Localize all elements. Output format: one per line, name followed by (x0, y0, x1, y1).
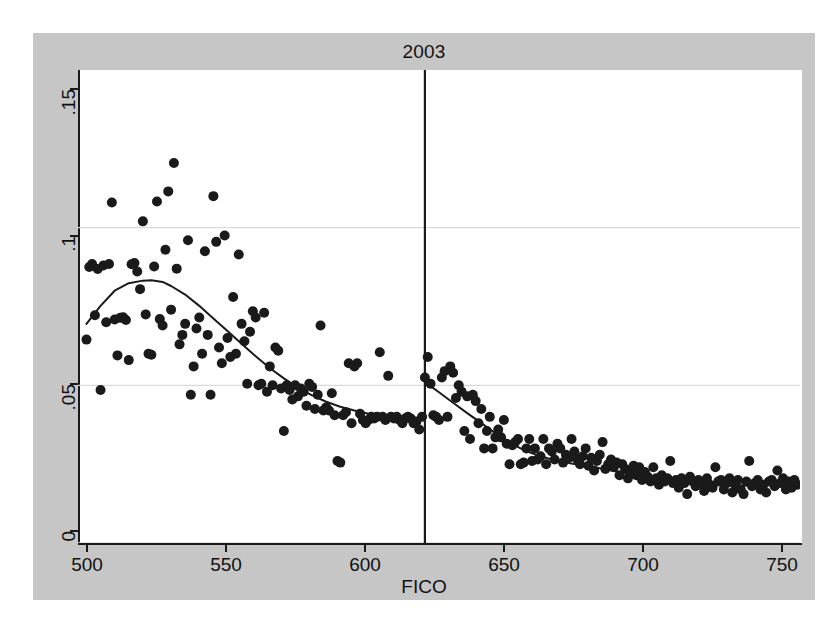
figure-root: 2003 .15 .1 .05 0 500 550 600 (0, 0, 840, 625)
y-tick-mark (70, 383, 78, 385)
y-tick-mark (70, 530, 78, 532)
y-tick-label-1: .1 (58, 236, 80, 276)
plot-area (78, 70, 800, 543)
y-tick-label-0: .15 (58, 89, 80, 129)
x-tick-label-700: 700 (603, 554, 683, 576)
scatter-points (81, 158, 800, 499)
y-tick-mark (70, 88, 78, 90)
x-tick-mark (642, 543, 644, 552)
x-tick-label-650: 650 (464, 554, 544, 576)
x-tick-label-500: 500 (47, 554, 127, 576)
x-tick-label-550: 550 (186, 554, 266, 576)
plot-svg (78, 70, 800, 543)
x-tick-mark (225, 543, 227, 552)
y-tick-label-2: .05 (58, 384, 80, 424)
x-tick-mark (781, 543, 783, 552)
fit-lines (86, 280, 797, 485)
x-tick-label-600: 600 (325, 554, 405, 576)
x-tick-mark (503, 543, 505, 552)
chart-title: 2003 (33, 41, 815, 63)
chart-frame: 2003 .15 .1 .05 0 500 550 600 (33, 33, 815, 600)
x-tick-mark (86, 543, 88, 552)
x-tick-label-750: 750 (742, 554, 822, 576)
x-tick-mark (364, 543, 366, 552)
x-axis-title: FICO (33, 576, 815, 598)
y-tick-mark (70, 235, 78, 237)
